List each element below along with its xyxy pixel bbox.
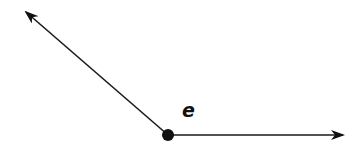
angle-label-e: e [182,101,195,120]
vertex-point [162,129,174,141]
diagram-canvas [0,0,350,147]
ray-upper-left [26,12,168,135]
